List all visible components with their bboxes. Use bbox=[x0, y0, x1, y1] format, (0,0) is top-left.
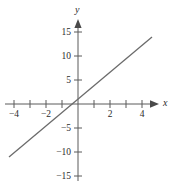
y-axis-up-arrow-icon bbox=[74, 19, 81, 28]
y-tick-label-5: 5 bbox=[46, 76, 71, 86]
x-axis-right-arrow-icon bbox=[150, 100, 159, 108]
graph-figure: −4 −2 2 4 15 10 5 −5 −10 −15 y x bbox=[0, 0, 173, 193]
x-tick-label--2: −2 bbox=[36, 110, 56, 120]
x-tick-label--4: −4 bbox=[4, 110, 24, 120]
x-axis-label: x bbox=[163, 98, 167, 108]
x-tick-label-4: 4 bbox=[133, 110, 151, 120]
y-tick-label-10: 10 bbox=[46, 52, 71, 62]
y-tick-label-15: 15 bbox=[46, 28, 71, 38]
y-axis-label: y bbox=[75, 5, 79, 15]
y-tick-label--15: −15 bbox=[44, 172, 71, 182]
x-tick-label-2: 2 bbox=[101, 110, 119, 120]
y-tick-label--5: −5 bbox=[44, 124, 71, 134]
data-line-series-1 bbox=[9, 37, 152, 157]
coordinate-plane bbox=[0, 0, 173, 193]
y-tick-label--10: −10 bbox=[44, 148, 71, 158]
